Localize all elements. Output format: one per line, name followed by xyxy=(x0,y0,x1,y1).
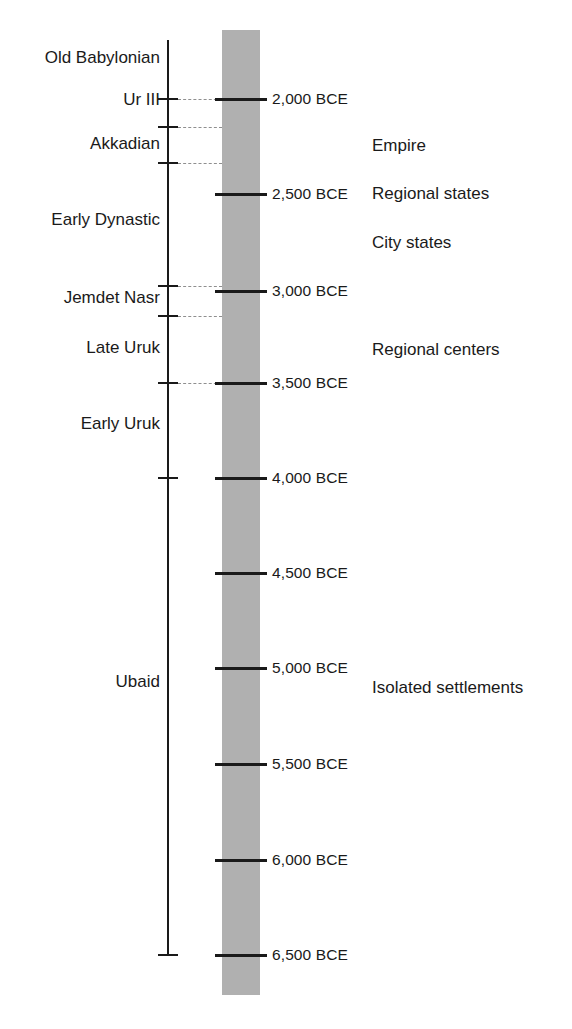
scale-tick-mark xyxy=(215,859,267,862)
period-label: Old Babylonian xyxy=(45,48,160,68)
timeline-figure: 2,000 BCE2,500 BCE3,000 BCE3,500 BCE4,00… xyxy=(0,0,572,1029)
period-label: Akkadian xyxy=(90,134,160,154)
period-boundary-tick xyxy=(158,285,178,287)
scale-tick-mark xyxy=(215,98,267,101)
period-boundary-tick xyxy=(158,382,178,384)
scale-tick-label: 5,000 BCE xyxy=(272,659,348,677)
social-organisation-annotation: Isolated settlements xyxy=(372,678,523,698)
scale-tick-label: 5,500 BCE xyxy=(272,755,348,773)
scale-tick-label: 4,500 BCE xyxy=(272,564,348,582)
scale-tick-label: 6,500 BCE xyxy=(272,946,348,964)
scale-tick-mark xyxy=(215,193,267,196)
period-boundary-tick xyxy=(158,126,178,128)
scale-tick-mark xyxy=(215,290,267,293)
scale-tick-mark xyxy=(215,382,267,385)
scale-tick-mark xyxy=(215,477,267,480)
period-axis-line xyxy=(167,40,169,955)
scale-tick-label: 2,000 BCE xyxy=(272,90,348,108)
scale-tick-mark xyxy=(215,667,267,670)
boundary-leader-line xyxy=(178,127,222,128)
scale-tick-mark xyxy=(215,572,267,575)
axis-end-cap xyxy=(158,954,178,956)
scale-tick-mark xyxy=(215,954,267,957)
scale-tick-label: 4,000 BCE xyxy=(272,469,348,487)
time-scale-band xyxy=(222,30,260,995)
period-label: Jemdet Nasr xyxy=(64,288,160,308)
period-boundary-tick xyxy=(158,315,178,317)
period-label: Ubaid xyxy=(116,672,160,692)
boundary-leader-line xyxy=(178,286,222,287)
period-boundary-tick xyxy=(158,98,178,100)
boundary-leader-line xyxy=(178,316,222,317)
scale-tick-label: 3,000 BCE xyxy=(272,282,348,300)
social-organisation-annotation: Regional states xyxy=(372,184,489,204)
period-label: Early Uruk xyxy=(81,414,160,434)
social-organisation-annotation: City states xyxy=(372,233,451,253)
period-label: Late Uruk xyxy=(86,338,160,358)
scale-tick-label: 3,500 BCE xyxy=(272,374,348,392)
scale-tick-label: 6,000 BCE xyxy=(272,851,348,869)
period-boundary-tick xyxy=(158,162,178,164)
period-label: Early Dynastic xyxy=(51,210,160,230)
social-organisation-annotation: Regional centers xyxy=(372,340,500,360)
period-label: Ur III xyxy=(123,90,160,110)
boundary-leader-line xyxy=(178,163,222,164)
social-organisation-annotation: Empire xyxy=(372,136,426,156)
period-boundary-tick xyxy=(158,477,178,479)
scale-tick-mark xyxy=(215,763,267,766)
scale-tick-label: 2,500 BCE xyxy=(272,185,348,203)
